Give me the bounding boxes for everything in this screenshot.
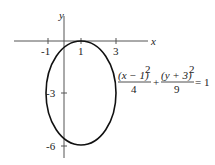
y-tick-label: -3: [46, 87, 56, 99]
y-tick-label: -6: [46, 140, 56, 152]
y-axis-label: y: [58, 9, 64, 21]
eq-term1-exponent: 2: [145, 63, 151, 75]
x-tick-label: 1: [78, 45, 84, 57]
x-tick-label: -1: [41, 45, 50, 57]
eq-plus: +: [153, 76, 159, 88]
eq-term2-numerator: (y + 3): [161, 69, 192, 82]
ellipse-graph: x y -1 1 3 -3 -6 (x − 1) 2 4 + (y + 3) 2…: [0, 0, 215, 165]
x-tick-label: 3: [113, 45, 119, 57]
eq-term2-exponent: 2: [189, 63, 195, 75]
x-axis-label: x: [150, 35, 156, 47]
svg-text:(y + 3): (y + 3): [161, 69, 192, 82]
eq-term2-denominator: 9: [174, 83, 180, 95]
eq-equals-one: = 1: [195, 76, 209, 88]
eq-term1-denominator: 4: [131, 83, 137, 95]
ellipse-equation: (x − 1) 2 4 + (y + 3) 2 9 = 1: [118, 63, 209, 95]
